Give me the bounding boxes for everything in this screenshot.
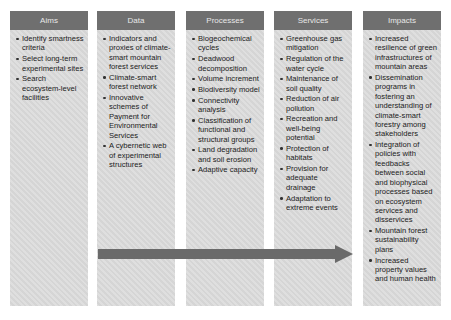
list-item: Dissemination programs in fostering an u… — [369, 73, 438, 139]
list-item: Integration of policies with feedbacks b… — [369, 140, 438, 225]
item-list: Biogeochemical cyclesDeadwood decomposit… — [192, 34, 261, 175]
item-list: Identify smartness criteriaSelect long-t… — [16, 34, 85, 102]
list-item: Adaptive capacity — [192, 165, 261, 174]
column-body: Biogeochemical cyclesDeadwood decomposit… — [186, 30, 264, 306]
list-item: Regulation of the water cycle — [280, 54, 349, 73]
column-processes: Processes Biogeochemical cyclesDeadwood … — [186, 11, 264, 156]
list-item: Select long-term experimental sites — [16, 54, 85, 73]
list-item: Increased resilience of green infrastruc… — [369, 34, 438, 72]
list-item: Protection of habitats — [280, 144, 349, 163]
list-item: Reduction of air pollution — [280, 94, 349, 113]
column-header: Aims — [10, 11, 88, 30]
list-item: Greenhouse gas mitigation — [280, 34, 349, 53]
list-item: Connectivity analysis — [192, 96, 261, 115]
column-header: Services — [274, 11, 352, 30]
list-item: Increased property values and human heal… — [369, 256, 438, 284]
list-item: A cybernetic web of experimental structu… — [103, 141, 172, 169]
item-list: Increased resilience of green infrastruc… — [369, 34, 438, 284]
column-services: Services Greenhouse gas mitigationRegula… — [274, 11, 352, 156]
list-item: Recreation and well-being potential — [280, 114, 349, 142]
list-item: Mountain forest sustainability plans — [369, 226, 438, 254]
column-body: Greenhouse gas mitigationRegulation of t… — [274, 30, 352, 306]
column-impacts: Impacts Increased resilience of green in… — [363, 11, 441, 156]
list-item: Land degradation and soil erosion — [192, 145, 261, 164]
list-item: Identify smartness criteria — [16, 34, 85, 53]
list-item: Innovative schemes of Payment for Enviro… — [103, 93, 172, 140]
list-item: Search ecosystem-level facilities — [16, 74, 85, 102]
right-arrow-icon — [98, 245, 353, 263]
column-body: Increased resilience of green infrastruc… — [363, 30, 441, 306]
column-body: Identify smartness criteriaSelect long-t… — [10, 30, 88, 306]
column-header: Impacts — [363, 11, 441, 30]
list-item: Maintenance of soil quality — [280, 74, 349, 93]
list-item: Adaptation to extreme events — [280, 194, 349, 213]
list-item: Volume increment — [192, 74, 261, 83]
list-item: Deadwood decomposition — [192, 54, 261, 73]
list-item: Indicators and proxies of climate-smart … — [103, 34, 172, 72]
item-list: Greenhouse gas mitigationRegulation of t… — [280, 34, 349, 212]
item-list: Indicators and proxies of climate-smart … — [103, 34, 172, 170]
list-item: Biogeochemical cycles — [192, 34, 261, 53]
list-item: Provision for adequate drainage — [280, 164, 349, 192]
list-item: Biodiversity model — [192, 85, 261, 94]
column-header: Data — [97, 11, 175, 30]
list-item: Climate-smart forest network — [103, 73, 172, 92]
column-aims: Aims Identify smartness criteriaSelect l… — [10, 11, 88, 156]
column-body: Indicators and proxies of climate-smart … — [97, 30, 175, 306]
column-header: Processes — [186, 11, 264, 30]
list-item: Classification of functional and structu… — [192, 116, 261, 144]
column-data: Data Indicators and proxies of climate-s… — [97, 11, 175, 156]
